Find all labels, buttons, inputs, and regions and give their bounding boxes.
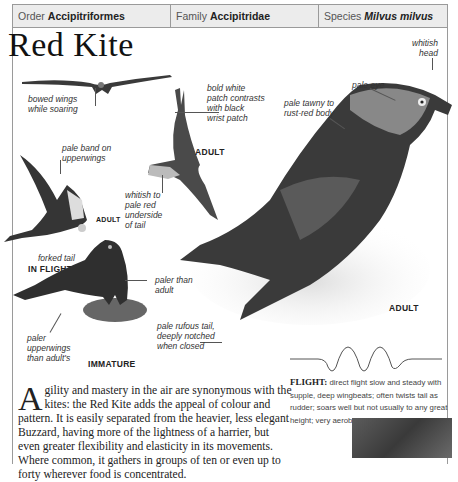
family-value: Accipitridae [210,10,270,22]
annotation-pale-band: pale band onupperwings [62,143,111,163]
annotation-paler-upperwings: palerupperwingsthan adult's [27,333,70,363]
leader-line [125,280,147,281]
order-value: Accipitriformes [48,10,125,22]
leader-line [95,88,96,106]
caption-adult-main: ADULT [389,303,419,313]
caption-immature: IMMATURE [88,359,136,369]
species-description: Agility and mastery in the air are synon… [18,384,293,482]
flight-pattern-wave-icon [290,345,442,375]
taxonomy-header: Order Accipitriformes Family Accipitrida… [13,4,447,28]
family-cell: Family Accipitridae [171,5,319,27]
annotation-pale-rufous-tail: pale rufous tail,deeply notchedwhen clos… [157,321,215,351]
annotation-bowed-wings: bowed wingswhile soaring [28,94,78,114]
annotation-pale-tawny: pale tawny torust-red body [284,98,334,118]
annotation-pale-eye: pale eye [352,80,384,90]
family-label: Family [176,10,207,22]
annotation-whitish-head: whitishhead [412,38,438,58]
species-value: Milvus milvus [364,10,433,22]
species-cell: Species Milvus milvus [319,5,447,27]
drop-cap: A [18,386,43,412]
caption-adult-flight-left: ADULT [96,216,121,223]
order-label: Order [18,10,45,22]
species-label: Species [324,10,361,22]
immature-kite-illustration [5,235,155,335]
leader-line [432,58,433,70]
kite-photo [352,418,452,458]
page-title: Red Kite [8,26,134,64]
annotation-whitish-tail: whitish topale redundersideof tail [125,190,162,230]
description-text: gility and mastery in the air are synony… [18,384,292,481]
order-cell: Order Accipitriformes [13,5,171,27]
leader-line [60,160,61,174]
flight-label: FLIGHT: [290,377,327,387]
